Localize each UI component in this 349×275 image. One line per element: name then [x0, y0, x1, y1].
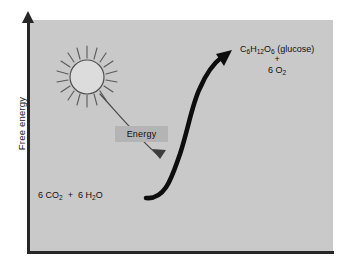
- free-energy-diagram: Free energy: [0, 0, 349, 275]
- energy-label: Energy: [115, 126, 168, 142]
- y-axis-arrowhead-icon: [22, 11, 34, 23]
- products-glucose-line: C6H12O6 (glucose): [240, 44, 314, 54]
- products-label: C6H12O6 (glucose) + 6 O2: [240, 44, 314, 76]
- y-axis-line: [27, 22, 30, 253]
- y-axis-label: Free energy: [16, 69, 27, 179]
- x-axis-line: [27, 251, 334, 254]
- products-oxygen-line: 6 O2: [240, 65, 314, 76]
- reactants-label: 6 CO2 + 6 H2O: [38, 190, 103, 200]
